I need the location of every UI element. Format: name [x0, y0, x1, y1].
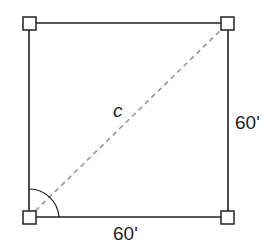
corner-marker-top-left [23, 17, 36, 30]
right-side-label: 60' [235, 113, 260, 132]
corner-marker-bottom-left [23, 211, 36, 224]
square-diagram [0, 0, 268, 249]
corner-marker-bottom-right [221, 211, 234, 224]
bottom-side-label: 60' [113, 224, 138, 243]
diagonal-line [29, 23, 228, 217]
diagonal-label: c [113, 101, 123, 120]
corner-marker-top-right [221, 17, 234, 30]
diagram: c 60' 60' [0, 0, 268, 249]
